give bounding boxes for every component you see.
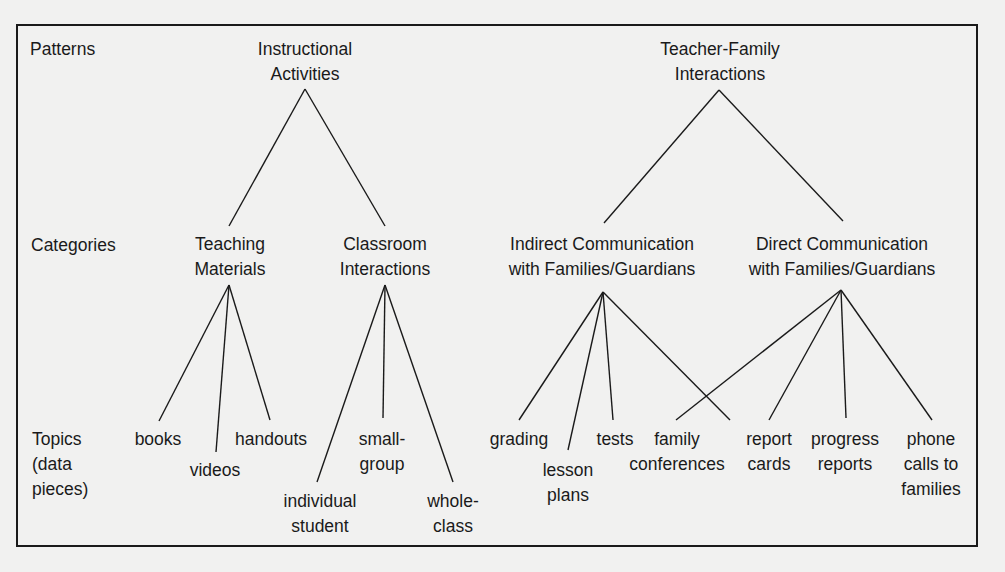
pattern-teacher-family-interactions: Teacher-Family Interactions — [644, 37, 796, 87]
topic-phone-calls-to-families: phone calls to families — [890, 427, 972, 502]
topic-lesson-plans: lesson plans — [537, 458, 599, 508]
edge-direct-familyconferences — [676, 290, 841, 420]
edge-indirect-tests — [603, 292, 613, 420]
category-classroom-interactions: Classroom Interactions — [326, 232, 444, 282]
topic-report-cards: report cards — [738, 427, 800, 477]
edge-teacherfamily-direct — [719, 90, 843, 221]
topic-grading: grading — [483, 427, 555, 452]
category-teaching-materials: Teaching Materials — [180, 232, 280, 282]
topic-family-conferences: family conferences — [618, 427, 736, 477]
edge-teaching-books — [159, 285, 229, 421]
edge-teacherfamily-indirect — [604, 90, 719, 223]
category-direct-communication: Direct Communication with Families/Guard… — [720, 232, 964, 282]
topic-small-group: small- group — [350, 427, 414, 477]
edge-instructional-teaching-materials — [229, 89, 305, 226]
row-label-categories: Categories — [31, 233, 116, 258]
category-indirect-communication: Indirect Communication with Families/Gua… — [478, 232, 726, 282]
edge-classroom-smallgroup — [383, 285, 385, 418]
connector-lines — [0, 0, 1005, 572]
row-label-topics: Topics (data pieces) — [32, 427, 88, 502]
topic-whole-class: whole- class — [420, 489, 486, 539]
edge-direct-reportcards — [769, 290, 841, 420]
edge-indirect-grading — [519, 292, 603, 420]
topic-books: books — [128, 427, 188, 452]
row-label-patterns: Patterns — [30, 37, 95, 62]
topic-handouts: handouts — [226, 427, 316, 452]
edge-instructional-classroom-interactions — [305, 89, 385, 226]
topic-individual-student: individual student — [274, 489, 366, 539]
edge-direct-progressreports — [841, 290, 846, 418]
edge-teaching-handouts — [229, 285, 270, 420]
edge-indirect-reportcards — [603, 292, 730, 420]
topic-progress-reports: progress reports — [803, 427, 887, 477]
pattern-instructional-activities: Instructional Activities — [245, 37, 365, 87]
edge-direct-phonecalls — [841, 290, 932, 420]
topic-videos: videos — [183, 458, 247, 483]
